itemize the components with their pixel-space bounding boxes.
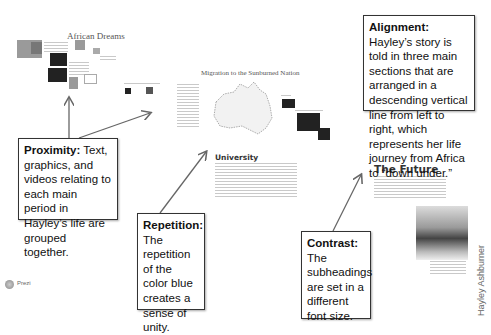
- alignment-term: Alignment:: [369, 21, 429, 33]
- migration-thumb-2[interactable]: [146, 87, 153, 94]
- proximity-callout: Proximity: Text, graphics, and videos re…: [18, 138, 118, 220]
- contrast-term: Contrast:: [307, 237, 358, 249]
- africa-photo-2: [31, 42, 42, 54]
- contrast-text: The subheadings are set in a different f…: [307, 252, 372, 322]
- migration-thumb-1[interactable]: [125, 88, 131, 94]
- africa-photo-6: [69, 77, 78, 89]
- africa-frame: [84, 74, 97, 84]
- migration-text: [177, 84, 199, 128]
- migration-photo-2: [297, 113, 320, 131]
- university-heading: University: [215, 153, 258, 162]
- contrast-callout: Contrast: The subheadings are set in a d…: [301, 231, 371, 319]
- migration-photo-3: [318, 128, 330, 140]
- repetition-term: Repetition:: [143, 219, 203, 231]
- future-photo-caption: [430, 261, 466, 275]
- africa-photo-4: [48, 68, 67, 82]
- contrast-arrow: [333, 175, 361, 231]
- proximity-term: Proximity:: [24, 144, 80, 156]
- author-credit: Hayley Ashburner: [476, 245, 486, 316]
- repetition-text: The repetition of the color blue creates…: [143, 234, 193, 334]
- migration-caption-2: [281, 95, 291, 96]
- proximity-arrow-2: [79, 113, 150, 138]
- future-photo: [416, 206, 468, 260]
- prezi-logo-icon: [5, 280, 14, 289]
- alignment-callout: Alignment: Hayley’s story is told in thr…: [363, 15, 475, 111]
- alignment-text: Hayley’s story is told in three main sec…: [369, 36, 467, 179]
- prezi-logo-label: Prezi: [17, 280, 31, 286]
- repetition-callout: Repetition: The repetition of the color …: [137, 213, 205, 310]
- migration-caption: [124, 83, 160, 84]
- university-body: [215, 163, 297, 199]
- migration-caption-3: [295, 110, 323, 111]
- africa-photo-3: [50, 53, 67, 66]
- australia-map: [210, 80, 278, 137]
- africa-photo-5: [93, 48, 100, 54]
- repetition-arrow: [160, 152, 206, 213]
- africa-map-icon: [75, 40, 85, 50]
- africa-text-3: [100, 56, 116, 60]
- migration-title: Migration to the Sunburned Nation: [201, 69, 299, 77]
- migration-photo-1: [282, 99, 295, 108]
